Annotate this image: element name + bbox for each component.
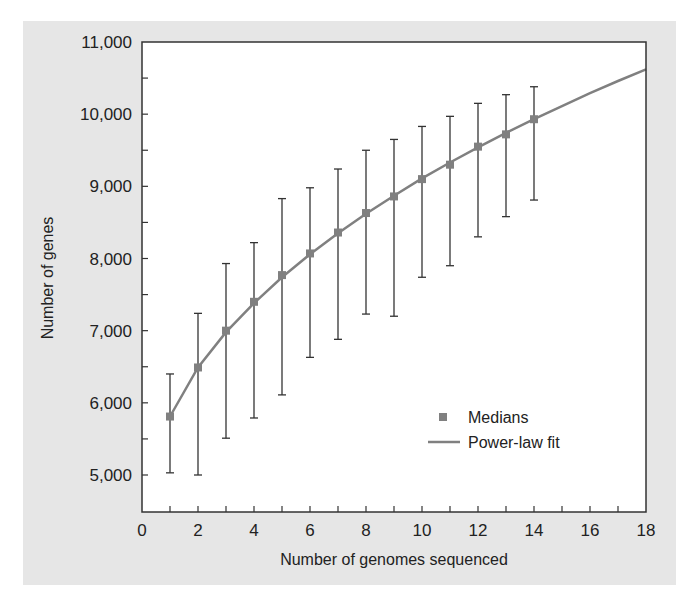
median-marker — [334, 229, 342, 237]
y-axis-ticks: 5,0006,0007,0008,0009,00010,00011,000 — [80, 33, 148, 485]
median-marker — [530, 115, 538, 123]
x-tick-label: 14 — [525, 521, 544, 540]
x-tick-label: 4 — [249, 521, 258, 540]
median-marker — [250, 298, 258, 306]
y-tick-label: 8,000 — [89, 250, 132, 269]
legend-label-medians: Medians — [468, 409, 528, 426]
y-tick-label: 9,000 — [89, 177, 132, 196]
y-tick-label: 10,000 — [80, 105, 132, 124]
x-tick-label: 2 — [193, 521, 202, 540]
median-marker — [362, 209, 370, 217]
median-marker — [222, 327, 230, 335]
median-marker — [474, 143, 482, 151]
x-axis-title: Number of genomes sequenced — [280, 551, 508, 568]
legend-label-power-law-fit: Power-law fit — [468, 434, 560, 451]
x-tick-label: 18 — [637, 521, 656, 540]
chart: 024681012141618 5,0006,0007,0008,0009,00… — [0, 0, 687, 607]
median-marker — [194, 363, 202, 371]
x-tick-label: 10 — [413, 521, 432, 540]
y-tick-label: 7,000 — [89, 322, 132, 341]
x-tick-label: 16 — [581, 521, 600, 540]
median-marker — [390, 192, 398, 200]
x-tick-label: 6 — [305, 521, 314, 540]
x-tick-label: 0 — [137, 521, 146, 540]
y-tick-label: 11,000 — [81, 33, 132, 52]
y-tick-label: 6,000 — [89, 394, 132, 413]
x-tick-label: 8 — [361, 521, 370, 540]
median-marker — [502, 130, 510, 138]
median-marker — [278, 271, 286, 279]
y-axis-title: Number of genes — [39, 217, 56, 340]
median-marker — [446, 161, 454, 169]
median-marker — [166, 413, 174, 421]
median-marker — [418, 175, 426, 183]
x-tick-label: 12 — [469, 521, 488, 540]
median-marker — [306, 249, 314, 257]
y-tick-label: 5,000 — [89, 466, 132, 485]
legend-median-marker-icon — [439, 413, 447, 421]
